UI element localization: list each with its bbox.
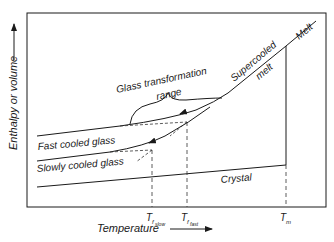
svg-text:slow: slow [155, 221, 165, 227]
tm-label: T m [280, 212, 291, 225]
svg-text:Enthalpy or volume: Enthalpy or volume [7, 56, 19, 150]
svg-text:fast: fast [190, 221, 199, 227]
plot-frame [27, 13, 326, 207]
x-axis-label: Temperature [97, 222, 159, 234]
slow-glass-label: Slowly cooled glass [36, 155, 124, 174]
fast-glass-label: Fast cooled glass [37, 134, 115, 152]
crystal-label: Crystal [220, 171, 253, 185]
svg-text:m: m [286, 219, 291, 225]
slow-cooled-glass-line [37, 107, 210, 161]
melt-label: Melt [293, 20, 315, 41]
supercooled-label: Supercooled [228, 39, 278, 84]
tf-fast-label: T f fast [181, 212, 199, 227]
slow-supercooled-extrapolation [136, 150, 152, 162]
glass-transition-diagram: Enthalpy or volume Temperature Melt Supe… [0, 0, 334, 242]
y-axis-label: Enthalpy or volume [7, 56, 19, 150]
